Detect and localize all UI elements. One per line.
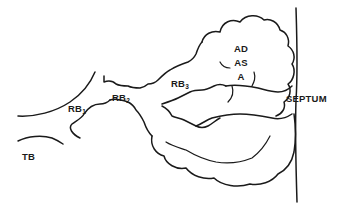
label-rb1: RB1: [68, 104, 86, 116]
label-rb2: RB2: [112, 93, 130, 105]
alveolus-inner-arc-right: [252, 72, 255, 86]
label-rb1-sub: 1: [82, 108, 86, 115]
septum-line: [296, 8, 298, 202]
label-a: A: [233, 72, 249, 82]
label-ad: AD: [233, 44, 249, 54]
label-rb2-base: RB: [112, 92, 126, 103]
label-rb1-base: RB: [68, 103, 82, 114]
rb2-lower-wall: [110, 99, 152, 136]
alveolus-inner-arc-left: [220, 62, 230, 68]
label-as-text: AS: [234, 57, 248, 68]
alveolar-lower-lobe-inner-arc: [166, 136, 270, 163]
label-rb2-sub: 2: [126, 97, 130, 104]
label-rb3-base: RB: [171, 78, 185, 89]
label-septum-text: SEPTUM: [286, 93, 327, 104]
label-rb3-sub: 3: [185, 83, 189, 90]
label-ad-text: AD: [234, 43, 248, 54]
label-tb: TB: [22, 152, 35, 162]
alveolar-duct-lower-band: [226, 85, 292, 92]
alveolar-lower-lobe-outline: [152, 114, 296, 186]
label-rb3: RB3: [171, 79, 189, 91]
label-tb-text: TB: [22, 151, 35, 162]
airway-diagram: TB RB1 RB2 RB3 AD AS A SEPTUM: [0, 0, 338, 206]
label-as: AS: [233, 58, 249, 68]
label-a-text: A: [237, 71, 244, 82]
label-septum: SEPTUM: [286, 94, 327, 104]
rb3-lower-wall: [162, 106, 220, 128]
terminal-bronchiole-lower-wall: [18, 136, 63, 144]
alveolus-inner-arc-bottom: [228, 86, 233, 102]
